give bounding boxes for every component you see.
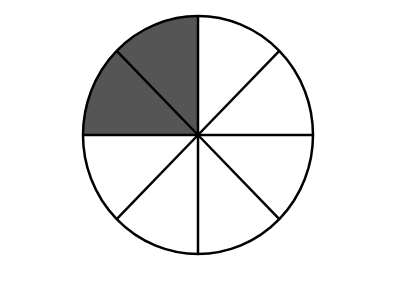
divider-lines: [83, 16, 313, 254]
fraction-circle-diagram: [0, 0, 403, 292]
